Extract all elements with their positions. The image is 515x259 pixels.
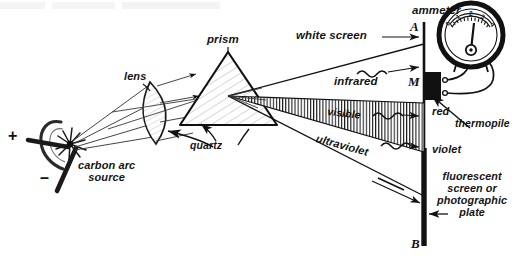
label-point-m: M <box>408 74 420 90</box>
diagram-canvas <box>0 0 515 259</box>
leader-quartz-3 <box>238 129 249 145</box>
label-point-a: A <box>410 19 419 35</box>
label-fluorescent-screen: fluorescent screen or photographic plate <box>437 170 507 218</box>
arc-core <box>67 141 73 147</box>
label-quartz: quartz <box>190 140 222 152</box>
label-point-b: B <box>411 236 420 252</box>
ammeter-tick-2: 2 <box>469 10 473 17</box>
thermopile-terminals <box>443 78 448 96</box>
positive-electrode <box>28 140 68 147</box>
label-prism: prism <box>207 33 239 46</box>
source-to-lens-rays <box>74 83 153 150</box>
label-infrared: infrared <box>334 75 378 88</box>
lens <box>143 82 166 144</box>
label-lens: lens <box>124 70 146 82</box>
label-positive-terminal: + <box>8 127 17 145</box>
optics-dispersion-diagram: prism lens quartz carbon arc source + – … <box>0 0 515 259</box>
infrared-upper-boundary <box>228 44 424 96</box>
label-violet: violet <box>432 143 461 155</box>
label-negative-terminal: – <box>40 169 49 187</box>
label-white-screen: white screen <box>296 29 367 42</box>
label-carbon-arc-source: carbon arc source <box>78 159 135 184</box>
label-red: red <box>432 105 449 117</box>
label-ammeter: ammeter <box>412 4 461 17</box>
label-thermopile: thermopile <box>455 118 510 130</box>
thermopile-block <box>424 72 441 100</box>
